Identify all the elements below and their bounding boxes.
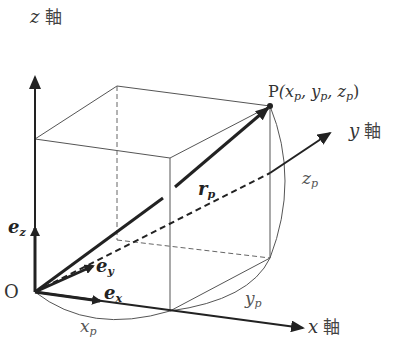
ez-label: ez xyxy=(8,218,26,238)
yp-label: yp xyxy=(245,290,262,309)
origin-label: O xyxy=(4,283,19,301)
x-axis-label: x 軸 xyxy=(308,318,340,336)
position-vector-rp-lower xyxy=(35,198,163,292)
position-vector-rp xyxy=(175,108,268,187)
ex-label: ex xyxy=(104,284,122,304)
point-p xyxy=(267,103,273,109)
point-p-label: P(xp, yp, zp) xyxy=(268,84,359,102)
y-axis-label: y 軸 xyxy=(349,122,381,140)
xp-label: xp xyxy=(80,318,97,337)
y-axis-hidden xyxy=(35,173,270,292)
rp-label: rp xyxy=(198,180,215,200)
z-axis-label: z 軸 xyxy=(30,8,62,26)
coordinate-diagram xyxy=(0,0,400,353)
y-axis xyxy=(270,133,330,173)
zp-label: zp xyxy=(302,170,318,189)
axes xyxy=(35,77,330,328)
ey-label: ey xyxy=(96,257,114,277)
